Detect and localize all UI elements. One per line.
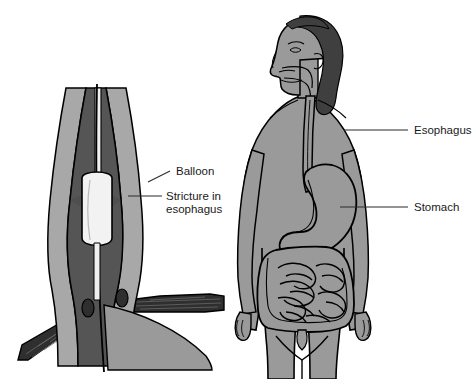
sphincter-nodule-right xyxy=(116,289,128,307)
medical-illustration-figure: Balloon Stricture in esophagus xyxy=(0,0,476,379)
rectum xyxy=(297,330,307,350)
label-stricture-line2: esophagus xyxy=(166,203,223,215)
illustration-canvas: Balloon Stricture in esophagus xyxy=(0,0,476,379)
label-balloon: Balloon xyxy=(176,165,214,177)
catheter-shaft-lower xyxy=(94,243,100,300)
dilation-balloon xyxy=(82,172,112,246)
label-esophagus: Esophagus xyxy=(414,124,472,136)
sphincter-nodule-left xyxy=(82,299,94,317)
label-stricture-line1: Stricture in xyxy=(166,190,221,202)
neck xyxy=(298,58,318,98)
label-stomach: Stomach xyxy=(414,201,459,213)
